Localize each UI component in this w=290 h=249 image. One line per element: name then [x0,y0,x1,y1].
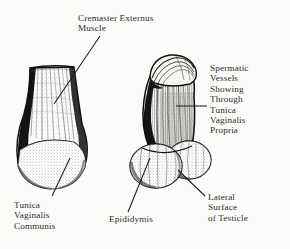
left-specimen [14,66,94,194]
label-spermatic-vessels: Spermatic Vessels Showing Through Tunica… [210,63,249,136]
right-specimen [128,50,212,190]
right-specimen-lobes [128,140,212,190]
label-tunica-vaginalis-communis: Tunica Vaginalis Communis [14,200,56,231]
label-lateral-surface-of-testicle: Lateral Surface of Testicle [208,192,248,223]
label-cremaster-externus-muscle: Cremaster Externus Muscle [78,13,153,34]
anatomical-plate: Cremaster Externus Muscle Spermatic Vess… [0,0,290,249]
label-epididymis: Epididymis [109,214,153,224]
